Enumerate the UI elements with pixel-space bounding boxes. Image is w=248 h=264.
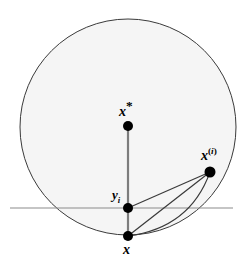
point-x-star bbox=[123, 121, 133, 131]
figure-svg bbox=[0, 0, 248, 264]
label-x-i: x(i) bbox=[201, 147, 217, 163]
label-x: x bbox=[123, 243, 130, 257]
label-x-star-mark: * bbox=[126, 98, 133, 113]
label-y-i-subscript: i bbox=[118, 195, 120, 205]
label-x-star-base: x bbox=[119, 104, 126, 119]
point-x-i bbox=[205, 167, 216, 178]
label-y-i: yi bbox=[112, 188, 120, 204]
figure-canvas: x* yi x x(i) bbox=[0, 0, 248, 264]
point-y-i bbox=[123, 203, 133, 213]
point-x bbox=[123, 231, 133, 241]
label-x-i-base: x bbox=[201, 148, 208, 163]
label-x-star: x* bbox=[119, 99, 133, 119]
label-x-i-paren-close: ) bbox=[214, 146, 217, 156]
label-x-base: x bbox=[123, 242, 130, 257]
